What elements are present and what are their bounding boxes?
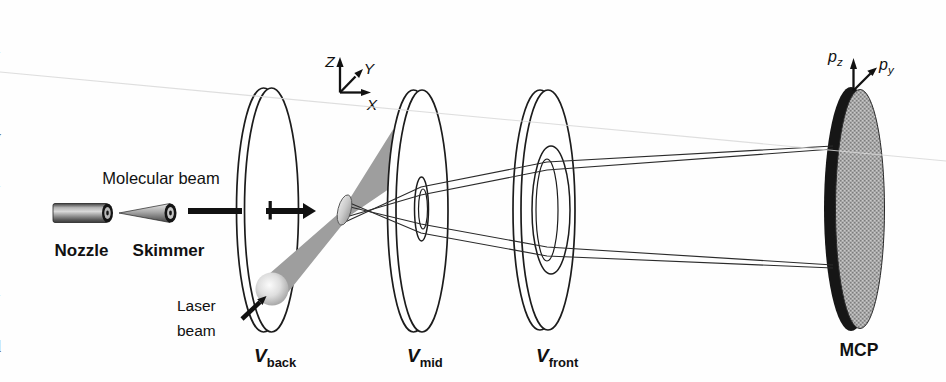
laser-beam-label: Laser beam [177, 297, 220, 339]
molecular-beam-label: Molecular beam [102, 169, 219, 187]
interaction-region [334, 193, 354, 226]
vmid-label: Vmid [407, 345, 443, 370]
momentum-axes [850, 58, 877, 91]
electrode-vmid-disk [388, 90, 449, 332]
electrode-vfront-disk [513, 90, 575, 330]
mcp-detector [824, 87, 885, 331]
figure-canvas: s a l y a - l a t d f [0, 0, 946, 382]
skimmer-label: Skimmer [133, 241, 205, 260]
axis-x-label: X [366, 96, 378, 113]
vfront-label: Vfront [536, 345, 579, 370]
vback-label: Vback [254, 345, 297, 370]
axis-y-label: Y [364, 60, 376, 77]
apparatus-diagram: Molecular beam Nozzle Skimmer Laser beam… [0, 0, 946, 382]
py-label: py [878, 56, 895, 76]
nozzle-label: Nozzle [55, 241, 109, 260]
skimmer-shape [119, 204, 177, 223]
axis-z-label: Z [324, 53, 335, 70]
nozzle-shape [53, 204, 113, 223]
pz-label: pz [827, 48, 843, 68]
mcp-label: MCP [840, 340, 879, 360]
scan-artifact-line [0, 72, 946, 161]
